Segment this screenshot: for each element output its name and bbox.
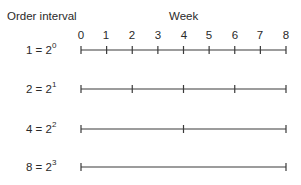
timeline-row-interval-2 (81, 85, 286, 93)
timeline-row-interval-4 (81, 125, 286, 133)
order-timeline-diagram (0, 0, 301, 185)
timeline-row-interval-8 (81, 163, 286, 171)
timeline-row-interval-1 (81, 46, 286, 54)
